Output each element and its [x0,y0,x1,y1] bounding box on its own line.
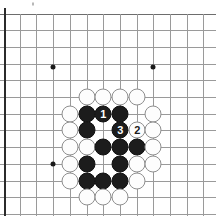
grid-line-horizontal-2 [0,47,216,48]
move-stone-1[interactable]: 1 [95,106,112,123]
white-stone[interactable] [79,189,96,206]
grid-line-horizontal-9 [0,164,216,165]
white-stone[interactable] [145,106,162,123]
black-stone[interactable] [95,139,112,156]
black-stone[interactable] [79,173,96,190]
grid-line-vertical-11 [187,14,188,216]
white-stone[interactable] [112,189,129,206]
grid-line-horizontal-4 [0,80,216,81]
stone-move-number: 1 [100,108,106,119]
grid-line-vertical-12 [203,14,204,216]
white-stone[interactable] [145,156,162,173]
grid-line-vertical-2 [36,14,37,216]
grid-line-vertical-3 [53,14,54,216]
black-stone[interactable] [79,106,96,123]
go-board: 132 [0,0,216,216]
stone-move-number: 3 [117,124,123,135]
white-stone[interactable] [145,122,162,139]
black-stone[interactable] [112,139,129,156]
black-stone[interactable] [79,156,96,173]
white-stone[interactable] [62,106,79,123]
grid-line-horizontal-7 [0,130,216,131]
star-point-lower-left [51,162,56,167]
white-stone[interactable] [95,189,112,206]
black-stone[interactable] [95,173,112,190]
white-stone[interactable] [79,139,96,156]
move-stone-2[interactable]: 2 [129,122,146,139]
grid-line-horizontal-1 [0,30,216,31]
move-stone-3[interactable]: 3 [112,122,129,139]
black-stone[interactable] [129,139,146,156]
grid-line-vertical-0 [4,8,6,216]
star-point-upper-right [151,65,156,70]
grid-line-horizontal-12 [0,214,216,215]
white-stone[interactable] [62,173,79,190]
white-stone[interactable] [62,156,79,173]
star-point-upper-left [51,65,56,70]
white-stone[interactable] [62,139,79,156]
stone-move-number: 2 [134,124,140,135]
black-stone[interactable] [112,156,129,173]
white-stone[interactable] [129,156,146,173]
white-stone[interactable] [145,139,162,156]
white-stone[interactable] [129,173,146,190]
white-stone[interactable] [112,89,129,106]
black-stone[interactable] [112,173,129,190]
grid-line-horizontal-3 [0,64,216,65]
grid-line-vertical-10 [170,14,171,216]
black-stone[interactable] [112,106,129,123]
grid-line-vertical-1 [20,14,21,216]
white-stone[interactable] [62,122,79,139]
white-stone[interactable] [79,89,96,106]
white-stone[interactable] [95,89,112,106]
white-stone[interactable] [129,89,146,106]
grid-line-horizontal-0 [0,14,216,15]
scan-speck [32,3,34,6]
black-stone[interactable] [79,122,96,139]
